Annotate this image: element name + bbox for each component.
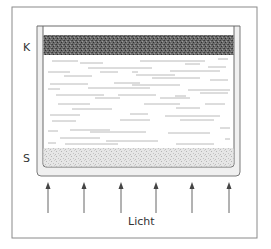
label-s: S [23, 152, 30, 165]
label-k: K [23, 41, 31, 54]
dark-layer-k [44, 35, 234, 55]
label-licht: Licht [128, 215, 155, 228]
arrow-icon [82, 182, 87, 213]
light-arrows [46, 182, 232, 213]
arrow-icon [154, 182, 159, 213]
arrow-icon [227, 182, 232, 213]
sediment-layer-s [44, 148, 234, 167]
arrow-icon [46, 182, 51, 213]
light-diagram: K S Licht [0, 0, 271, 249]
arrow-icon [119, 182, 124, 213]
arrow-icon [190, 182, 195, 213]
